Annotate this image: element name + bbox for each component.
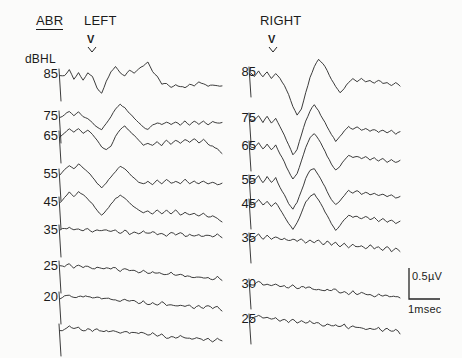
- left-onset-artifact-8: [59, 324, 61, 356]
- right-onset-artifact-1: [249, 113, 251, 143]
- left-trace-20: [60, 295, 222, 311]
- scalebar-time-label: 1msec: [408, 303, 441, 315]
- right-trace-85: [250, 59, 400, 115]
- left-trace-25: [60, 264, 222, 281]
- right-wave-v-caret-icon: [269, 47, 277, 52]
- abr-chart-page: ABR LEFT RIGHT dBHL V V 8575655545352520…: [0, 0, 462, 358]
- right-onset-artifact-0: [249, 67, 251, 97]
- right-onset-artifact-5: [249, 233, 251, 263]
- left-trace-repeat: [60, 326, 222, 342]
- right-trace-75: [250, 105, 400, 155]
- left-onset-artifact-7: [59, 292, 61, 324]
- right-trace-55: [250, 169, 400, 210]
- scalebar-amplitude-label: 0.5µV: [412, 270, 442, 282]
- left-trace-85: [60, 62, 222, 93]
- right-trace-45: [250, 194, 400, 231]
- right-trace-35: [250, 234, 400, 252]
- left-trace-45: [60, 192, 222, 222]
- right-trace-65: [250, 134, 400, 179]
- right-trace-30: [250, 281, 400, 298]
- left-trace-75: [60, 104, 222, 130]
- right-onset-artifact-6: [249, 279, 251, 309]
- right-trace-25: [250, 315, 400, 334]
- left-wave-v-caret-icon: [88, 47, 96, 52]
- left-trace-35: [60, 227, 222, 237]
- right-onset-artifact-7: [249, 314, 251, 344]
- left-onset-artifact-0: [59, 69, 61, 101]
- left-trace-65: [60, 126, 222, 154]
- right-onset-artifact-2: [249, 141, 251, 171]
- left-trace-55: [60, 164, 222, 188]
- abr-waveform-traces: [0, 0, 462, 358]
